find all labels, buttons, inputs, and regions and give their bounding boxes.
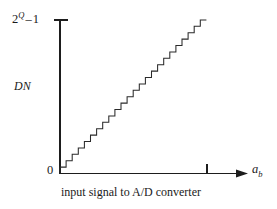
staircase-curve <box>60 20 206 174</box>
y-axis-title: DN <box>14 80 31 92</box>
x-axis-arrow-icon <box>236 170 248 178</box>
quantization-figure: 2Q–1 0 DN ab input signal to A/D convert… <box>0 0 277 209</box>
y-max-one: 1 <box>33 12 39 26</box>
x-var-subscript: b <box>258 169 262 179</box>
plot-canvas <box>0 0 277 209</box>
x-axis-caption: input signal to A/D converter <box>61 186 201 198</box>
y-max-minus: – <box>24 12 32 26</box>
x-axis-variable-label: ab <box>252 163 263 176</box>
y-axis-min-label: 0 <box>47 164 53 177</box>
y-axis-max-label: 2Q–1 <box>12 13 39 26</box>
